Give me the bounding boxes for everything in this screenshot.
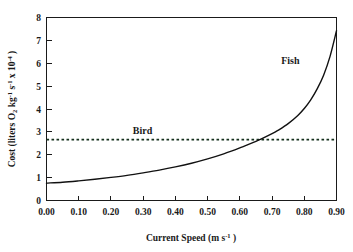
x-tick-label: 0.50 bbox=[199, 207, 216, 217]
y-tick-label: 3 bbox=[36, 127, 41, 137]
x-tick-label: 0.40 bbox=[167, 207, 184, 217]
x-tick-label: 0.20 bbox=[103, 207, 120, 217]
y-tick-label: 6 bbox=[36, 59, 41, 69]
x-axis-title-tail: ) bbox=[231, 233, 237, 244]
y-tick-label: 0 bbox=[36, 196, 41, 206]
x-axis-ticks bbox=[47, 196, 337, 201]
cost-vs-current-speed-chart: 0 1 2 3 4 5 6 7 8 0.00 0.10 0.20 0.30 0.… bbox=[0, 0, 353, 252]
x-tick-labels: 0.00 0.10 0.20 0.30 0.40 0.50 0.60 0.70 … bbox=[38, 207, 345, 217]
plot-frame bbox=[47, 18, 337, 201]
y-tick-labels: 0 1 2 3 4 5 6 7 8 bbox=[36, 13, 41, 206]
y-axis-title: Cost (liters O2 kg-1 s-1 x 10-4 ) bbox=[6, 51, 19, 168]
y-axis-title-p4: x 10 bbox=[7, 61, 17, 80]
figure-container: 0 1 2 3 4 5 6 7 8 0.00 0.10 0.20 0.30 0.… bbox=[0, 0, 353, 252]
y-axis-title-p2: kg bbox=[7, 97, 17, 110]
bird-series-label: Bird bbox=[133, 125, 153, 136]
y-axis-ticks bbox=[47, 18, 52, 201]
y-axis-title-p5: ) bbox=[7, 51, 18, 57]
y-tick-label: 1 bbox=[36, 173, 41, 183]
y-tick-label: 7 bbox=[36, 36, 41, 46]
x-tick-label: 0.10 bbox=[70, 207, 87, 217]
fish-series-label: Fish bbox=[281, 55, 300, 66]
x-axis-title-main: Current Speed (m s bbox=[146, 233, 226, 244]
svg-text:Cost (liters O2 kg-1 s-1 x 10-: Cost (liters O2 kg-1 s-1 x 10-4 ) bbox=[6, 51, 19, 168]
x-tick-label: 0.80 bbox=[296, 207, 313, 217]
y-tick-label: 4 bbox=[36, 105, 41, 115]
y-tick-label: 2 bbox=[36, 150, 41, 160]
x-tick-label: 0.00 bbox=[38, 207, 55, 217]
x-tick-label: 0.30 bbox=[135, 207, 152, 217]
x-tick-label: 0.60 bbox=[231, 207, 248, 217]
y-tick-label: 8 bbox=[36, 13, 41, 23]
x-tick-label: 0.70 bbox=[264, 207, 281, 217]
x-tick-label: 0.90 bbox=[328, 207, 345, 217]
y-axis-title-p1: Cost (liters O bbox=[7, 113, 18, 167]
svg-text:Current Speed (m s-1 ): Current Speed (m s-1 ) bbox=[146, 232, 236, 244]
y-tick-label: 5 bbox=[36, 82, 41, 92]
x-axis-title: Current Speed (m s-1 ) bbox=[146, 232, 236, 244]
